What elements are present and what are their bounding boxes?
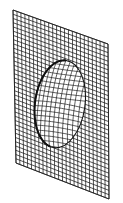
mesh-figure [0, 0, 123, 203]
dome-grid-line [24, 154, 87, 163]
mesh-plane-with-dome [0, 0, 123, 203]
